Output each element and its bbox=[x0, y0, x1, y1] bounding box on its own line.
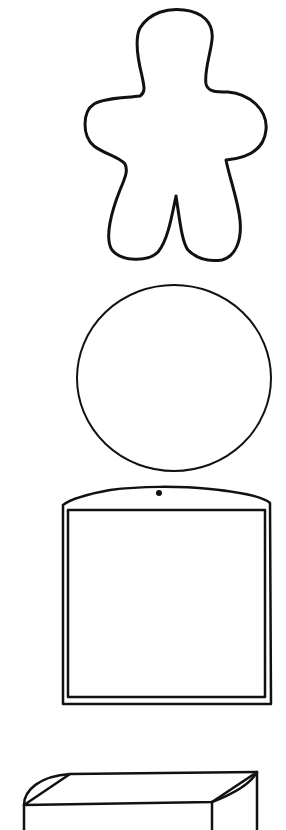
gingerbread-man-outline bbox=[85, 10, 266, 261]
box-outline bbox=[24, 772, 257, 830]
circle-outline bbox=[77, 285, 271, 471]
hanging-hole-icon bbox=[156, 490, 162, 496]
template-sheet: Gingerbread man outline Circle outline A… bbox=[0, 0, 286, 830]
arched-frame-outline bbox=[63, 487, 271, 704]
shape-templates bbox=[0, 0, 286, 830]
